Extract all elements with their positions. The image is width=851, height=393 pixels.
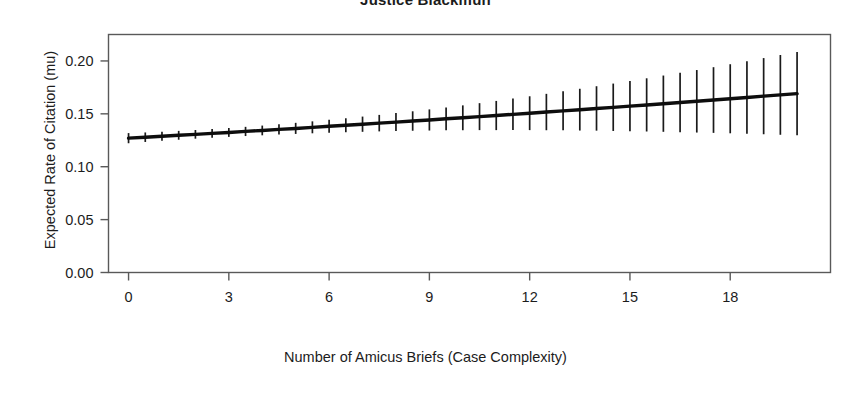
plot-frame bbox=[109, 35, 831, 273]
x-tick-label: 0 bbox=[125, 289, 133, 305]
x-tick-label: 12 bbox=[522, 289, 538, 305]
y-tick-label: 0.20 bbox=[65, 53, 93, 69]
y-axis-tick-labels: 0.000.050.100.150.20 bbox=[65, 53, 93, 281]
x-tick-label: 9 bbox=[425, 289, 433, 305]
chart-figure: Justice Blackmun Expected Rate of Citati… bbox=[0, 0, 851, 393]
x-tick-label: 18 bbox=[722, 289, 738, 305]
x-axis-tick-labels: 0369121518 bbox=[125, 289, 739, 305]
x-tick-label: 15 bbox=[622, 289, 638, 305]
y-axis-ticks bbox=[101, 61, 109, 273]
x-axis-ticks bbox=[129, 273, 731, 281]
x-tick-label: 6 bbox=[325, 289, 333, 305]
x-tick-label: 3 bbox=[225, 289, 233, 305]
y-tick-label: 0.05 bbox=[65, 212, 93, 228]
errorbars-group bbox=[129, 52, 798, 143]
y-tick-label: 0.10 bbox=[65, 159, 93, 175]
y-tick-label: 0.15 bbox=[65, 106, 93, 122]
y-tick-label: 0.00 bbox=[65, 265, 93, 281]
plot-area: 0369121518 0.000.050.100.150.20 bbox=[0, 0, 851, 393]
